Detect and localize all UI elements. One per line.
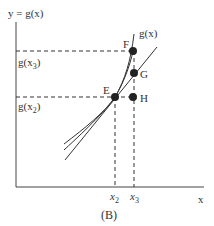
x-tick-x3: x3 bbox=[129, 190, 139, 205]
curve-label: g(x) bbox=[139, 27, 158, 40]
y-axis-label: y = g(x) bbox=[8, 7, 44, 20]
label-e: E bbox=[103, 84, 110, 96]
x-axis-label: x bbox=[198, 193, 204, 205]
secant-curve bbox=[64, 51, 133, 150]
point-e bbox=[111, 93, 119, 101]
label-f: F bbox=[123, 38, 129, 50]
y-tick-gx3: g(x3) bbox=[18, 56, 41, 71]
label-g: G bbox=[140, 68, 148, 80]
x-tick-x2: x2 bbox=[109, 190, 119, 205]
diagram-figure: E F G H y = g(x) g(x) x g(x3) g(x2) x2 x… bbox=[0, 0, 214, 226]
y-tick-gx2: g(x2) bbox=[18, 100, 41, 115]
panel-label: (B) bbox=[101, 208, 117, 222]
point-g bbox=[130, 69, 138, 77]
point-f bbox=[129, 47, 137, 55]
label-h: H bbox=[140, 92, 148, 104]
point-h bbox=[129, 93, 137, 101]
